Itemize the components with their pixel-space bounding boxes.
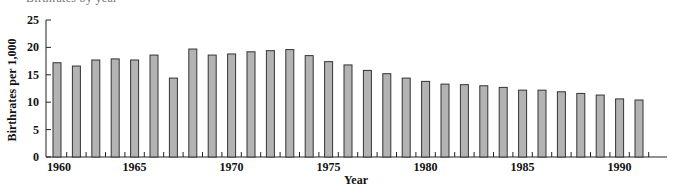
y-tick-label: 15: [27, 68, 39, 82]
y-tick-label: 10: [27, 95, 39, 109]
bar-1964: [111, 59, 119, 157]
bar-1963: [92, 60, 100, 157]
bar-1975: [325, 62, 333, 157]
bar-1974: [305, 56, 313, 157]
bar-1977: [363, 70, 371, 157]
x-tick-label: 1960: [47, 160, 71, 174]
bars: [53, 49, 643, 157]
x-tick-label: 1985: [511, 160, 535, 174]
y-tick-label: 0: [33, 150, 39, 164]
y-tick-label: 5: [33, 123, 39, 137]
x-axis: 1960196519701975198019851990: [46, 152, 667, 174]
y-axis-title: Birthrates per 1,000: [5, 39, 19, 142]
bar-1991: [635, 100, 643, 157]
bar-1981: [441, 84, 449, 157]
bar-1985: [519, 90, 527, 157]
y-tick-label: 20: [27, 40, 39, 54]
bar-1968: [189, 49, 197, 157]
bar-1988: [577, 93, 585, 157]
bar-1984: [499, 87, 507, 157]
bar-1978: [383, 74, 391, 157]
bar-1976: [344, 65, 352, 157]
y-axis: 0510152025: [27, 13, 51, 164]
bar-1967: [169, 78, 177, 157]
x-axis-title: Year: [344, 173, 369, 187]
bar-1980: [422, 81, 430, 157]
bar-1982: [460, 85, 468, 157]
x-tick-label: 1990: [608, 160, 632, 174]
x-tick-label: 1980: [414, 160, 438, 174]
x-tick-label: 1970: [220, 160, 244, 174]
bar-1971: [247, 52, 255, 157]
x-tick-label: 1975: [317, 160, 341, 174]
bar-1961: [53, 63, 61, 157]
x-tick-label: 1965: [123, 160, 147, 174]
y-tick-label: 25: [27, 13, 39, 27]
bar-1972: [266, 51, 274, 157]
bar-1970: [228, 54, 236, 157]
bar-1989: [596, 95, 604, 157]
bar-1965: [131, 60, 139, 157]
bar-chart: 0510152025 1960196519701975198019851990 …: [0, 0, 678, 196]
bar-1983: [480, 86, 488, 157]
bar-1966: [150, 55, 158, 157]
bar-1987: [557, 92, 565, 157]
bar-1990: [616, 99, 624, 157]
bar-1973: [286, 50, 294, 157]
bar-1979: [402, 78, 410, 157]
bar-1962: [72, 66, 80, 157]
bar-1969: [208, 55, 216, 157]
bar-1986: [538, 90, 546, 157]
